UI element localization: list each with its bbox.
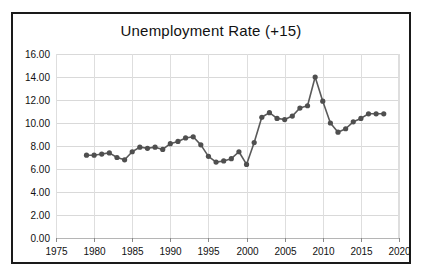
data-point — [282, 117, 287, 122]
data-point — [130, 149, 135, 154]
plot-area: 0.002.004.006.008.0010.0012.0014.0016.00… — [13, 14, 413, 266]
data-point — [92, 153, 97, 158]
data-point — [366, 111, 371, 116]
x-axis-tick-label: 2010 — [312, 246, 335, 257]
data-point — [137, 145, 142, 150]
data-point — [191, 134, 196, 139]
data-point — [175, 139, 180, 144]
y-axis-tick-label: 8.00 — [31, 141, 51, 152]
data-point — [84, 153, 89, 158]
x-axis-tick-label: 2020 — [388, 246, 411, 257]
x-axis-tick-label: 1980 — [83, 246, 106, 257]
data-point — [297, 105, 302, 110]
x-axis-tick-label: 1985 — [121, 246, 144, 257]
y-axis-tick-label: 4.00 — [31, 187, 51, 198]
data-point — [343, 126, 348, 131]
data-point — [244, 162, 249, 167]
x-axis-tick-label: 1995 — [197, 246, 220, 257]
data-point — [259, 115, 264, 120]
data-point — [290, 114, 295, 119]
data-point — [198, 142, 203, 147]
line-chart-svg: 0.002.004.006.008.0010.0012.0014.0016.00… — [13, 14, 413, 266]
gridlines — [56, 54, 399, 239]
data-point — [381, 111, 386, 116]
y-axis-tick-label: 16.00 — [25, 49, 50, 60]
data-point — [213, 160, 218, 165]
data-point — [335, 130, 340, 135]
data-point — [328, 120, 333, 125]
data-point — [107, 150, 112, 155]
data-point — [236, 149, 241, 154]
y-axis-tick-label: 10.00 — [25, 118, 50, 129]
data-point — [152, 145, 157, 150]
data-point — [122, 157, 127, 162]
data-point — [160, 147, 165, 152]
y-axis-tick-label: 12.00 — [25, 95, 50, 106]
data-point — [305, 103, 310, 108]
data-point — [183, 135, 188, 140]
y-axis-tick-label: 0.00 — [31, 233, 51, 244]
data-point — [221, 158, 226, 163]
y-axis-tick-labels: 0.002.004.006.008.0010.0012.0014.0016.00 — [25, 49, 50, 244]
data-point — [145, 146, 150, 151]
y-axis-tick-label: 2.00 — [31, 210, 51, 221]
data-point — [114, 155, 119, 160]
y-axis-tick-label: 6.00 — [31, 164, 51, 175]
x-axis-tick-label: 2005 — [274, 246, 297, 257]
data-point — [252, 140, 257, 145]
data-point — [351, 119, 356, 124]
data-point — [374, 111, 379, 116]
chart-frame: Unemployment Rate (+15) 0.002.004.006.00… — [11, 12, 411, 264]
data-series-unemployment-rate — [84, 74, 386, 167]
x-axis-tick-label: 1975 — [45, 246, 68, 257]
x-axis-tick-label: 2015 — [350, 246, 373, 257]
data-point — [274, 116, 279, 121]
x-axis-tick-label: 1990 — [159, 246, 182, 257]
data-point — [99, 151, 104, 156]
data-point — [313, 74, 318, 79]
data-point — [229, 156, 234, 161]
data-point — [168, 141, 173, 146]
data-point — [267, 110, 272, 115]
x-axis-tick-labels: 1975198019851990199520002005201020152020 — [45, 246, 411, 257]
data-point — [358, 116, 363, 121]
data-point — [320, 99, 325, 104]
x-axis-tick-label: 2000 — [236, 246, 259, 257]
y-axis-tick-label: 14.00 — [25, 72, 50, 83]
data-point — [206, 154, 211, 159]
